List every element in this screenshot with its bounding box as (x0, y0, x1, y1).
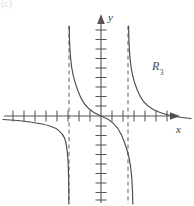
y-axis-arrowhead (97, 14, 105, 24)
graph-canvas (0, 0, 194, 206)
y-axis (96, 14, 107, 203)
curve-left-branch (3, 120, 69, 205)
panel-tag: (c) (1, 0, 12, 9)
axis-label-x: x (176, 124, 181, 135)
region-label-subscript: 3 (160, 68, 164, 77)
curve-branches (3, 26, 191, 204)
figure-container: (c) y x R3 (0, 0, 194, 206)
region-label-base: R (152, 59, 159, 73)
axis-label-y: y (108, 12, 113, 23)
x-axis (4, 111, 180, 122)
region-label: R3 (152, 60, 163, 75)
